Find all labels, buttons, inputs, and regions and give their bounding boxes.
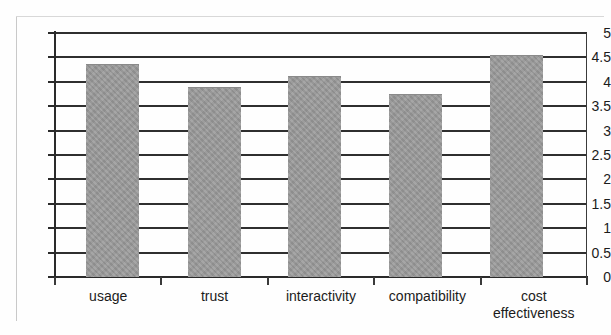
bar [389,94,442,277]
x-axis-tick-mark [586,277,588,285]
bar [86,64,139,277]
x-axis-category-label: cost effectiveness [481,288,587,322]
x-axis-tick-mark [373,277,375,285]
x-axis-tick-mark [160,277,162,285]
bar [288,76,341,277]
x-axis-tick-mark [54,277,56,285]
x-axis-tick-mark [267,277,269,285]
x-axis-category-label: compatibility [374,288,480,305]
x-axis-category-label: trust [161,288,267,305]
plot-area [55,33,587,277]
x-axis-tick-mark [480,277,482,285]
x-axis-category-label: interactivity [268,288,374,305]
bar-chart: 54.543.532.521.510.50 usagetrustinteract… [0,0,611,335]
x-axis-category-label: usage [55,288,161,305]
bar [490,55,543,277]
bar [188,87,241,277]
